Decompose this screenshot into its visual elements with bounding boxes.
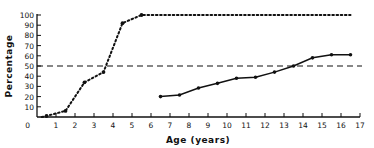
dotted-series-marker [83,80,87,84]
solid-series-marker [292,64,296,68]
solid-series-marker [254,75,258,79]
x-tick-label: 8 [187,121,192,130]
solid-series-marker [197,86,201,90]
y-tick-label: 90 [24,21,34,30]
y-tick-label: 10 [24,103,34,112]
x-axis-label: Age (years) [166,135,230,145]
x-tick-label: 15 [317,121,327,130]
x-tick-label: 16 [336,121,346,130]
solid-series-marker [349,53,353,57]
dotted-series-marker [64,109,68,113]
y-axis-label: Percentage [4,35,14,98]
x-tick-label: 2 [73,121,78,130]
y-tick-label: 40 [24,72,34,81]
x-tick-label: 1 [54,121,59,130]
y-tick-label: 50 [24,62,34,71]
solid-series-marker [273,70,277,74]
solid-series-marker [178,93,182,97]
dotted-series-marker [121,21,125,25]
x-axis-ticks: 1234567891011121314151617 [54,113,365,130]
x-tick-label: 3 [92,121,97,130]
solid-series-marker [216,82,220,86]
y-axis-ticks: 0102030405060708090100 [20,11,41,130]
x-tick-label: 6 [149,121,154,130]
y-tick-label: 20 [24,93,34,102]
dotted-series-marker [45,114,49,118]
x-tick-label: 5 [130,121,135,130]
x-tick-label: 7 [168,121,173,130]
x-tick-label: 10 [222,121,232,130]
x-tick-label: 11 [241,121,251,130]
y-tick-label: 0 [25,121,30,130]
x-tick-label: 4 [111,121,116,130]
y-tick-label: 60 [24,52,34,61]
y-tick-label: 80 [24,31,34,40]
x-tick-label: 17 [355,121,365,130]
solid-series-marker [235,76,239,80]
x-tick-label: 12 [260,121,270,130]
x-tick-label: 14 [298,121,308,130]
dotted-series-marker [102,70,106,74]
solid-series-marker [159,95,163,99]
y-tick-label: 30 [24,82,34,91]
x-tick-label: 9 [206,121,211,130]
y-tick-label: 70 [24,42,34,51]
y-tick-label: 100 [20,11,35,20]
line-chart: 0102030405060708090100 12345678910111213… [0,0,374,148]
solid-series-marker [330,53,334,57]
x-tick-label: 13 [279,121,289,130]
dotted-series-marker [140,13,144,17]
solid-series-marker [311,56,315,60]
